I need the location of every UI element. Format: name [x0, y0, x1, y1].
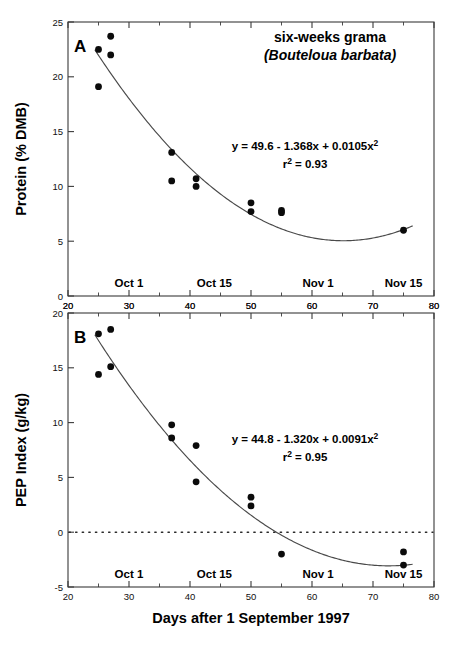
x-tick-label-top: 40 — [185, 300, 196, 311]
data-point — [248, 208, 255, 215]
x-tick-label-top: 80 — [429, 300, 440, 311]
panel-a-equation: y = 49.6 - 1.368x + 0.0105x2 — [232, 138, 379, 153]
panel-a-y-ticks: 0510152025 — [52, 17, 74, 302]
panel-b: -505101520 2020303040405050606070708080 … — [13, 300, 439, 602]
data-point — [107, 33, 114, 40]
y-tick-label: 20 — [52, 308, 63, 319]
data-point — [278, 551, 285, 558]
y-tick-label: 5 — [58, 236, 63, 247]
y-tick-label: 25 — [52, 17, 63, 28]
date-label: Oct 1 — [115, 568, 144, 580]
x-tick-label: 40 — [185, 591, 196, 602]
panel-b-equation: y = 44.8 - 1.320x + 0.0091x2 — [232, 431, 379, 446]
x-tick-label-top: 50 — [246, 300, 257, 311]
date-label: Nov 1 — [302, 568, 334, 580]
data-point — [248, 494, 255, 501]
y-tick-label: 15 — [52, 126, 63, 137]
y-tick-label: 20 — [52, 71, 63, 82]
y-tick-label: 15 — [52, 362, 63, 373]
data-point — [95, 46, 102, 53]
data-point — [168, 421, 175, 428]
species-scientific-name: (Bouteloua barbata) — [264, 47, 397, 63]
data-point — [95, 371, 102, 378]
data-point — [400, 549, 407, 556]
y-tick-label: 10 — [52, 181, 63, 192]
x-tick-label-top: 60 — [307, 300, 318, 311]
data-point — [107, 51, 114, 58]
data-point — [193, 478, 200, 485]
x-tick-label: 70 — [368, 591, 379, 602]
data-point — [107, 363, 114, 370]
date-label: Nov 15 — [385, 568, 423, 580]
panel-a-date-labels: Oct 1Oct 15Nov 1Nov 15 — [115, 277, 423, 289]
panel-a-plot-frame — [68, 22, 434, 296]
data-point — [107, 326, 114, 333]
data-point — [168, 435, 175, 442]
panel-a-x-ticks: 20304050607080 — [63, 22, 440, 311]
data-point — [400, 227, 407, 234]
panel-a-r-squared: r2 = 0.93 — [283, 156, 328, 171]
x-tick-label: 30 — [124, 591, 135, 602]
panel-a: 0510152025 20304050607080 Oct 1Oct 15Nov… — [13, 17, 439, 311]
x-tick-label: 20 — [63, 591, 74, 602]
date-label: Nov 1 — [302, 277, 334, 289]
data-point — [193, 442, 200, 449]
x-tick-label: 50 — [246, 591, 257, 602]
panel-a-y-axis-title: Protein (% DMB) — [13, 102, 29, 216]
x-tick-label-top: 20 — [63, 300, 74, 311]
data-point — [248, 503, 255, 510]
data-point — [400, 562, 407, 569]
y-tick-label: 10 — [52, 417, 63, 428]
x-tick-label-top: 30 — [124, 300, 135, 311]
y-tick-label: 5 — [58, 472, 63, 483]
x-tick-label: 80 — [429, 591, 440, 602]
x-tick-label: 60 — [307, 591, 318, 602]
data-point — [193, 175, 200, 182]
panel-b-letter: B — [74, 328, 86, 347]
figure-root: 0510152025 20304050607080 Oct 1Oct 15Nov… — [0, 0, 456, 645]
panel-b-y-axis-title: PEP Index (g/kg) — [13, 393, 29, 507]
data-point — [95, 330, 102, 337]
x-tick-label-top: 70 — [368, 300, 379, 311]
panel-b-fit-curve — [95, 335, 413, 566]
data-point — [95, 83, 102, 90]
y-tick-label: 0 — [58, 527, 63, 538]
data-point — [248, 199, 255, 206]
panel-b-x-ticks: 2020303040405050606070708080 — [63, 300, 440, 602]
x-axis-title: Days after 1 September 1997 — [152, 610, 349, 626]
data-point — [168, 149, 175, 156]
date-label: Oct 1 — [115, 277, 144, 289]
date-label: Oct 15 — [197, 568, 233, 580]
panel-b-r-squared: r2 = 0.95 — [283, 449, 328, 464]
data-point — [193, 183, 200, 190]
panel-a-letter: A — [74, 37, 86, 56]
date-label: Nov 15 — [385, 277, 423, 289]
date-label: Oct 15 — [197, 277, 233, 289]
panel-b-date-labels: Oct 1Oct 15Nov 1Nov 15 — [115, 568, 423, 580]
data-point — [278, 209, 285, 216]
species-common-name: six-weeks grama — [274, 29, 386, 45]
panel-b-plot-frame — [68, 313, 434, 587]
panel-b-y-ticks: -505101520 — [52, 308, 74, 593]
data-point — [168, 178, 175, 185]
